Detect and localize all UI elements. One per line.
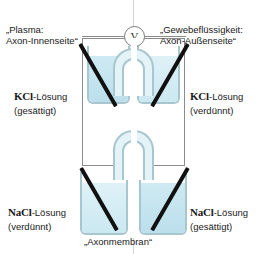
label-nacl-saturated-state: (gesättigt)	[190, 221, 248, 232]
label-nacl-dilute-suffix: -Lösung	[32, 207, 66, 218]
label-kcl-saturated-suffix: -Lösung	[33, 91, 67, 102]
label-plasma-line2: Axon-Innenseite“	[6, 35, 78, 46]
label-plasma: „Plasma: Axon-Innenseite“	[6, 24, 78, 46]
label-nacl-dilute-formula: NaCl	[8, 206, 32, 218]
diagram-canvas: V „Plasma: Axon-Innenseite“ „Gewebeflüss…	[0, 0, 268, 254]
label-gewebe-line1: „Gewebeflüssigkeit:	[160, 24, 243, 35]
label-kcl-saturated-formula: KCl	[14, 90, 33, 102]
label-gewebe-line2: Axon-Außenseite“	[160, 35, 243, 46]
label-kcl-dilute: KCl-Lösung (verdünnt)	[190, 86, 243, 116]
voltmeter-lead-left	[82, 36, 125, 37]
label-nacl-dilute: NaCl-Lösung (verdünnt)	[8, 202, 66, 232]
label-nacl-saturated-suffix: -Lösung	[214, 207, 248, 218]
label-kcl-dilute-state: (verdünnt)	[190, 105, 243, 116]
label-nacl-dilute-state: (verdünnt)	[8, 221, 66, 232]
label-kcl-saturated-state: (gesättigt)	[14, 105, 67, 116]
membrane-gap	[131, 38, 137, 238]
label-kcl-saturated: KCl-Lösung (gesättigt)	[14, 86, 67, 116]
label-nacl-saturated: NaCl-Lösung (gesättigt)	[190, 202, 248, 232]
label-plasma-line1: „Plasma:	[6, 24, 43, 35]
label-gewebefluessigkeit: „Gewebeflüssigkeit: Axon-Außenseite“	[160, 24, 243, 46]
label-kcl-dilute-suffix: -Lösung	[209, 91, 243, 102]
label-axonmembran: „Axonmembran“	[84, 236, 152, 247]
label-nacl-saturated-formula: NaCl	[190, 206, 214, 218]
label-kcl-dilute-formula: KCl	[190, 90, 209, 102]
